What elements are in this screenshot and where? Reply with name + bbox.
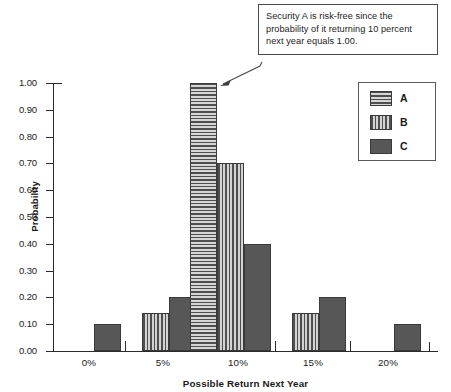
bar-b-15pct [292,313,319,351]
y-axis-tick-label: 0.40 [19,238,37,249]
legend-item-c: C [370,139,408,154]
legend-swatch-a-icon [370,91,392,106]
x-axis-tick-label: 15% [303,357,323,368]
x-axis-tick-label: 5% [156,357,170,368]
legend-label-b: B [400,117,408,128]
y-axis-tick-label: 0.50 [19,211,37,222]
x-axis-tick-label: 10% [228,357,248,368]
chart-legend: A B C [358,82,436,161]
y-axis-tick: 0.00 [46,351,54,352]
y-axis-tick-label: 0.60 [19,184,37,195]
bar-b-5pct [142,313,169,351]
y-axis-tick: 0.10 [46,324,54,325]
y-axis-tick: 0.20 [46,297,54,298]
x-axis-right-cap [429,342,430,352]
legend-swatch-b-icon [370,115,392,130]
x-axis-tick [275,341,276,352]
x-axis-tick [125,341,126,352]
y-axis-tick-label: 0.80 [19,131,37,142]
y-axis-tick-label: 0.70 [19,157,37,168]
y-axis-tick-label: 1.00 [19,77,37,88]
legend-swatch-c-icon [370,139,392,154]
x-axis-tick-label: 20% [378,357,398,368]
y-axis-tick: 0.70 [46,163,54,164]
bar-c-15pct [319,297,346,351]
y-axis-tick: 0.50 [46,217,54,218]
y-axis-tick-label: 0.10 [19,318,37,329]
bar-c-0pct [94,324,121,351]
x-axis-line [53,351,438,352]
y-axis-tick-label: 0.30 [19,265,37,276]
y-axis-tick: 0.60 [46,190,54,191]
bar-b-10pct [217,163,244,351]
bar-a-10pct [190,83,217,351]
chart-callout-text: Security A is risk-free since the probab… [266,10,430,48]
y-axis-tick-label: 0.90 [19,104,37,115]
y-axis-top-cap [53,83,62,84]
chart-callout: Security A is risk-free since the probab… [258,4,438,55]
bar-c-10pct [244,244,271,351]
x-axis-title: Possible Return Next Year [53,378,438,389]
legend-item-b: B [370,115,408,130]
x-axis-tick [350,341,351,352]
y-axis-tick-label: 0.20 [19,291,37,302]
y-axis-tick: 0.90 [46,110,54,111]
legend-item-a: A [370,91,408,106]
y-axis-tick-label: 0.00 [19,345,37,356]
legend-label-c: C [400,141,408,152]
y-axis-tick: 1.00 [46,83,54,84]
bar-c-20pct [394,324,421,351]
y-axis-tick: 0.40 [46,244,54,245]
x-axis-tick-label: 0% [82,357,96,368]
y-axis-tick: 0.30 [46,271,54,272]
legend-label-a: A [400,93,408,104]
y-axis-tick: 0.80 [46,137,54,138]
